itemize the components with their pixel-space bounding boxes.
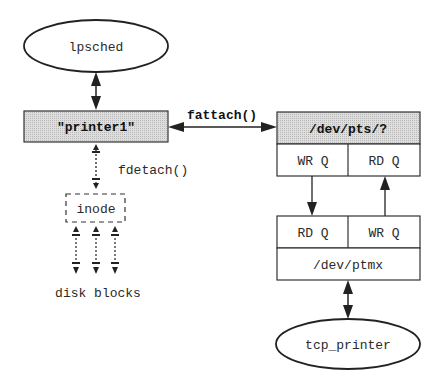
lpsched-label: lpsched <box>69 40 124 55</box>
fattach-label: fattach() <box>187 108 257 123</box>
inode-node: inode <box>66 194 125 222</box>
disk-blocks-label: disk blocks <box>55 286 141 301</box>
printer1-node: "printer1" <box>24 111 168 142</box>
lpsched-node: lpsched <box>24 20 168 72</box>
tcp-printer-node: tcp_printer <box>276 319 420 369</box>
dev-pts-label: /dev/pts/? <box>309 122 387 137</box>
disk-arrow-1 <box>72 226 80 274</box>
dev-pts-node: /dev/pts/? WR Q RD Q <box>277 112 420 176</box>
inode-label: inode <box>76 202 115 217</box>
fdetach-arrow: fdetach() <box>92 144 188 189</box>
disk-arrow-3 <box>111 226 119 274</box>
dev-ptmx-node: RD Q WR Q /dev/ptmx <box>277 216 420 280</box>
ptmx-to-pts-arrow <box>380 176 390 216</box>
fattach-arrow: fattach() <box>168 108 277 132</box>
fdetach-label: fdetach() <box>118 163 188 178</box>
ptmx-wrq-label: WR Q <box>368 226 399 241</box>
ptmx-tcp-arrow <box>343 280 353 319</box>
disk-arrow-2 <box>92 226 100 274</box>
stream-diagram: lpsched "printer1" fattach() fdetach() i… <box>0 0 444 388</box>
ptmx-rdq-label: RD Q <box>297 226 328 241</box>
pts-wrq-label: WR Q <box>297 154 328 169</box>
inode-disk-arrows <box>72 226 119 274</box>
tcp-printer-label: tcp_printer <box>305 338 391 353</box>
pts-rdq-label: RD Q <box>368 154 399 169</box>
dev-ptmx-label: /dev/ptmx <box>313 258 383 273</box>
lpsched-printer1-arrow <box>91 72 101 110</box>
pts-to-ptmx-arrow <box>307 176 317 216</box>
printer1-label: "printer1" <box>57 120 135 135</box>
